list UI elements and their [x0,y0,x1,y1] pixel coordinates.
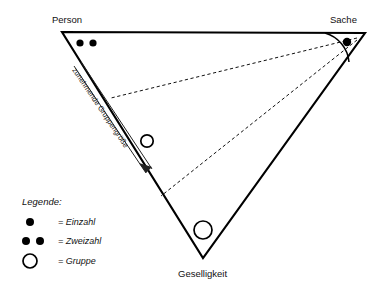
legend-label-gruppe: = Gruppe [58,256,96,266]
legend-title: Legende: [22,196,62,207]
legend-label-einzahl: = Einzahl [58,217,96,227]
vertex-label-sache: Sache [330,14,357,25]
vertex-label-person: Person [52,14,82,25]
vertex-label-geselligkeit: Geselligkeit [178,268,227,279]
legend: Legende: = Einzahl = Zweizahl = Gruppe [22,196,102,268]
legend-item-zweizahl: = Zweizahl [22,236,102,246]
interior-symbol-gruppe [141,135,153,147]
triangle-diagram: zunehmende Gruppengröße Person Sache Ges… [0,0,380,295]
vertex-symbol-geselligkeit [194,221,212,239]
legend-label-zweizahl: = Zweizahl [58,236,102,246]
filled-dot [76,39,83,46]
legend-item-gruppe: = Gruppe [23,254,96,268]
legend-symbol-gruppe [23,254,37,268]
angle-arc-sache [325,33,349,62]
dashed-ray-upper [111,38,357,98]
legend-item-einzahl: = Einzahl [26,217,96,227]
dashed-ray-group [111,38,357,196]
filled-dot [89,39,96,46]
legend-symbol-zweizahl-dot-2 [36,237,44,245]
legend-symbol-zweizahl-dot-1 [22,237,30,245]
legend-symbol-einzahl [26,218,34,226]
vertex-symbol-person [76,39,96,46]
axis-annotation-label: zunehmende Gruppengröße [70,66,130,149]
diagram-page: zunehmende Gruppengröße Person Sache Ges… [0,0,380,295]
triangle-outline [62,32,365,258]
axis-line-inner [81,62,152,169]
vertex-symbol-sache [343,38,351,46]
dashed-ray-lower [161,40,357,196]
